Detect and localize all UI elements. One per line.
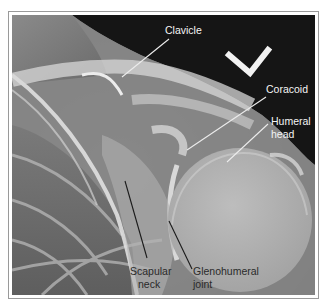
label-coracoid: Coracoid	[266, 83, 308, 95]
label-scapular-neck-line2: neck	[138, 278, 160, 290]
figure-frame: Clavicle Coracoid Humeral head Scapular …	[8, 11, 319, 299]
xray-illustration	[12, 15, 315, 295]
label-glenohumeral-joint-line1: Glenohumeral	[193, 265, 259, 277]
label-humeral-head-line1: Humeral	[271, 115, 311, 127]
label-scapular-neck-line1: Scapular	[130, 265, 171, 277]
label-clavicle: Clavicle	[165, 24, 202, 36]
xray-image: Clavicle Coracoid Humeral head Scapular …	[12, 15, 315, 295]
label-humeral-head-line2: head	[271, 128, 294, 140]
label-glenohumeral-joint-line2: joint	[193, 278, 212, 290]
